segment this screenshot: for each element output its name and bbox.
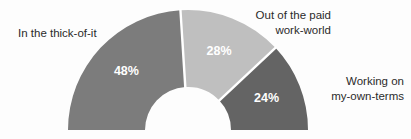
slice-value-working-on-my-own-terms: 24% <box>254 91 279 105</box>
semicircle-donut-chart: 48% 28% 24% In the thick-of-it Out of th… <box>0 0 411 139</box>
callout-label-out-of-the-paid-work-world: Out of the paid work-world <box>256 8 331 37</box>
slice-value-out-of-the-paid-work-world: 28% <box>207 44 232 58</box>
callout-label-in-the-thick-of-it: In the thick-of-it <box>18 26 97 41</box>
slice-value-in-the-thick-of-it: 48% <box>114 64 139 78</box>
donut-svg: 48% 28% 24% <box>0 0 411 139</box>
callout-label-working-on-my-own-terms: Working on my-own-terms <box>331 74 404 103</box>
